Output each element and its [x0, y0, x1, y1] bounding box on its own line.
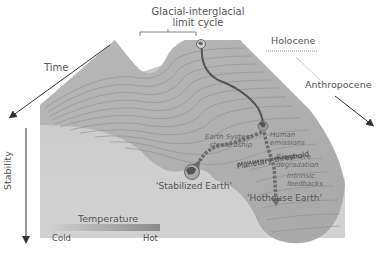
anthropocene-label: Anthropocene — [305, 79, 372, 90]
time-axis-label: Time — [44, 62, 68, 73]
earth-globe-icon-top — [197, 40, 206, 49]
temperature-legend-bar — [52, 224, 160, 231]
legend-hot-label: Hot — [143, 233, 158, 243]
landscape-svg — [0, 0, 387, 259]
earth-globe-icon-human — [258, 121, 268, 131]
intrinsic-feedbacks-label: Intrinsic feedbacks — [287, 172, 323, 188]
earth-globe-icon-stabilized — [185, 165, 200, 180]
diagram-title: Glacial-interglacial limit cycle — [138, 6, 258, 28]
human-emissions-label: Human emissions — [270, 131, 305, 147]
stability-axis-label: Stability — [2, 151, 13, 190]
hothouse-earth-label: 'Hothouse Earth' — [247, 193, 322, 203]
holocene-label: Holocene — [271, 35, 315, 46]
anthropocene-arrow — [335, 96, 371, 124]
earth-system-stewardship-label: Earth System stewardship — [205, 133, 252, 149]
stability-landscape-diagram: Glacial-interglacial limit cycle Time Ho… — [0, 0, 387, 259]
temperature-legend-title: Temperature — [78, 213, 138, 224]
legend-cold-label: Cold — [52, 233, 71, 243]
limit-cycle-bracket — [140, 29, 196, 36]
stabilized-earth-label: 'Stabilized Earth' — [156, 181, 232, 191]
